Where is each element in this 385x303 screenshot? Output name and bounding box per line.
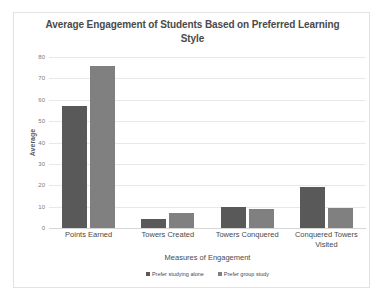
legend-label: Prefer studying alone [152, 271, 204, 277]
y-axis-title: Average [27, 57, 39, 228]
x-axis-tick-label: Conquered Towers Visited [287, 230, 366, 250]
x-axis-tick-labels: Points EarnedTowers CreatedTowers Conque… [49, 230, 366, 250]
legend-swatch-icon [146, 272, 150, 276]
bar[interactable] [141, 219, 166, 228]
bar[interactable] [300, 187, 325, 228]
legend-swatch-icon [218, 272, 222, 276]
bar-group [287, 57, 366, 228]
bar[interactable] [249, 209, 274, 228]
legend-item[interactable]: Prefer studying alone [146, 271, 204, 277]
legend-label: Prefer group study [224, 271, 269, 277]
x-axis-title: Measures of Engagement [49, 253, 366, 262]
y-axis-tick-label: 0 [42, 225, 45, 231]
x-axis-tick-label: Points Earned [49, 230, 128, 250]
bar-group [208, 57, 287, 228]
bars-layer [49, 57, 366, 228]
y-axis-tick-label: 60 [38, 97, 45, 103]
y-axis-tick-label: 50 [38, 118, 45, 124]
y-axis-tick-label: 80 [38, 54, 45, 60]
y-axis-tick-label: 30 [38, 161, 45, 167]
chart-title: Average Engagement of Students Based on … [40, 18, 345, 46]
x-axis-tick-label: Towers Created [128, 230, 207, 250]
bar[interactable] [221, 207, 246, 228]
y-axis-tick-label: 20 [38, 182, 45, 188]
bar[interactable] [62, 106, 87, 228]
bar-group [128, 57, 207, 228]
y-axis-tick-label: 10 [38, 204, 45, 210]
legend-item[interactable]: Prefer group study [218, 271, 269, 277]
chart-container: Average Engagement of Students Based on … [13, 12, 370, 288]
bar[interactable] [169, 213, 194, 228]
x-axis-tick-label: Towers Conquered [208, 230, 287, 250]
bar[interactable] [90, 66, 115, 228]
chart-legend: Prefer studying alonePrefer group study [49, 271, 366, 277]
bar-group [49, 57, 128, 228]
y-axis-tick-label: 70 [38, 75, 45, 81]
bar[interactable] [328, 208, 353, 228]
gridline: 0 [49, 228, 366, 229]
y-axis-tick-label: 40 [38, 140, 45, 146]
plot-area: 01020304050607080 [49, 57, 366, 228]
y-axis-title-label: Average [30, 129, 37, 156]
